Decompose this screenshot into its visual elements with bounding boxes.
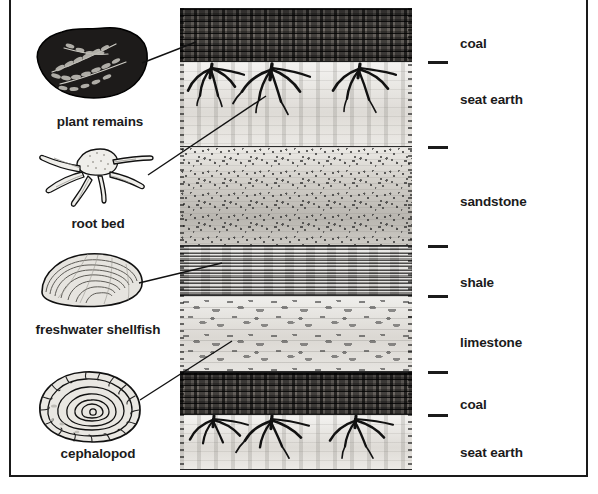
stratum-label-seat-earth-top: seat earth — [460, 92, 523, 107]
stratum-shale — [180, 246, 412, 296]
stratigraphic-column — [180, 8, 412, 470]
root-system-icon — [180, 62, 412, 146]
tick-coal-bottom — [428, 414, 448, 417]
freshwater-shellfish-label: freshwater shellfish — [36, 322, 161, 337]
stratum-seat-earth-top — [180, 62, 412, 147]
stratum-label-coal-top: coal — [460, 36, 487, 51]
root-bed-label: root bed — [71, 216, 124, 231]
freshwater-shellfish-illustration — [36, 248, 148, 314]
root-system-icon — [180, 415, 412, 469]
stratum-limestone — [180, 296, 412, 372]
stratum-sandstone — [180, 147, 412, 246]
tick-seat-earth-top — [428, 146, 448, 149]
plant-remains-label: plant remains — [57, 114, 143, 129]
tick-limestone — [428, 371, 448, 374]
tick-coal-top — [428, 61, 448, 64]
root-bed-illustration — [34, 142, 158, 210]
tick-sandstone — [428, 245, 448, 248]
cephalopod-illustration — [32, 368, 148, 446]
stratum-label-shale: shale — [460, 275, 494, 290]
tick-shale — [428, 295, 448, 298]
plant-remains-illustration — [30, 22, 154, 102]
stratum-label-coal-bottom: coal — [460, 397, 487, 412]
cephalopod-label: cephalopod — [61, 446, 136, 461]
stratum-coal-top — [180, 8, 412, 62]
stratum-label-limestone: limestone — [460, 335, 522, 350]
stratum-seat-earth-bottom — [180, 415, 412, 470]
stratum-coal-bottom — [180, 372, 412, 415]
stratum-label-sandstone: sandstone — [460, 194, 527, 209]
stratum-label-seat-earth-bottom: seat earth — [460, 445, 523, 460]
